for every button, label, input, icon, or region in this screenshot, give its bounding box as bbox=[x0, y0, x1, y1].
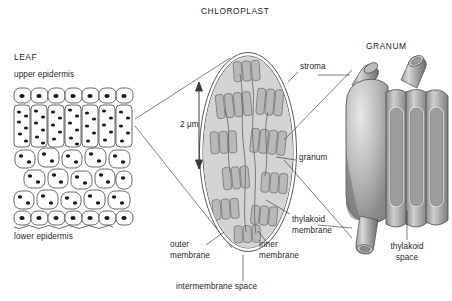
thylakoid-space-label: thylakoid space bbox=[376, 242, 438, 263]
granum-illustration bbox=[346, 53, 448, 254]
scale-label: 2 μm bbox=[180, 120, 199, 131]
stroma-label: stroma bbox=[300, 62, 326, 73]
thylakoid-discs bbox=[386, 89, 448, 227]
chloroplast-heading: CHLOROPLAST bbox=[201, 6, 297, 17]
granum-label: granum bbox=[299, 153, 327, 164]
upper-epidermis-label: upper epidermis bbox=[14, 70, 74, 81]
outer-membrane-label: outer membrane bbox=[170, 240, 210, 261]
thylakoid-membrane-label: thylakoid membrane bbox=[292, 215, 332, 236]
leaf-lower-edge bbox=[14, 226, 113, 229]
lower-epidermis-cells bbox=[14, 211, 133, 225]
inner-membrane-label: inner membrane bbox=[259, 240, 299, 261]
spongy-mesophyll-cells bbox=[14, 148, 132, 209]
diagram-canvas: LEAF upper epidermis lower epidermis CHL… bbox=[0, 0, 452, 301]
stroma-and-grana bbox=[203, 56, 293, 248]
granum-heading: GRANUM bbox=[366, 41, 407, 52]
leaf-heading: LEAF bbox=[14, 52, 37, 63]
leader-stroma bbox=[288, 72, 298, 82]
palisade-mesophyll-cells bbox=[14, 105, 132, 147]
upper-epidermis-cells bbox=[14, 88, 133, 103]
chloroplast-illustration bbox=[200, 53, 297, 252]
lower-epidermis-label: lower epidermis bbox=[14, 232, 73, 243]
leaf-cross-section bbox=[14, 88, 133, 229]
intermembrane-space-label: intermembrane space bbox=[176, 282, 257, 293]
lower-stroma-tube bbox=[356, 216, 378, 254]
